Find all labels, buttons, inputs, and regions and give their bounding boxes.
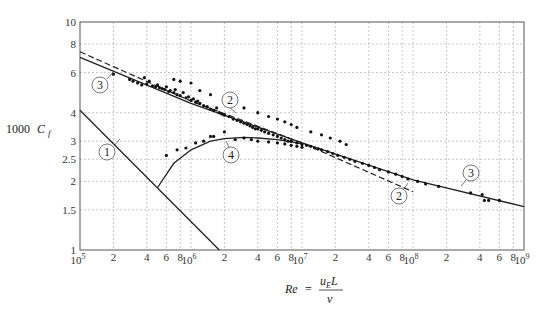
data-point xyxy=(256,111,259,114)
data-point xyxy=(256,140,259,143)
data-point xyxy=(202,104,205,107)
data-point xyxy=(437,185,440,188)
data-point xyxy=(320,133,323,136)
data-point xyxy=(151,84,154,87)
data-point xyxy=(209,135,212,138)
data-point xyxy=(251,126,254,129)
x-tick-label: 2 xyxy=(333,251,339,263)
data-point xyxy=(223,114,226,117)
label-leader xyxy=(226,141,229,147)
y-tick-label: 8 xyxy=(71,38,77,50)
data-point xyxy=(295,141,298,144)
data-point xyxy=(373,166,376,169)
label-leader xyxy=(230,108,236,113)
data-point xyxy=(331,152,334,155)
data-point xyxy=(361,162,364,165)
data-point xyxy=(280,136,283,139)
label-leader xyxy=(107,72,113,79)
data-point xyxy=(290,144,293,147)
x-axis-label-denominator: ν xyxy=(327,292,333,306)
data-point xyxy=(212,135,215,138)
data-point xyxy=(378,168,381,171)
curve-label-2: 2 xyxy=(396,189,402,203)
data-point xyxy=(223,130,226,133)
data-point xyxy=(145,82,148,85)
x-tick-label: 4 xyxy=(366,251,372,263)
data-point xyxy=(189,81,192,84)
data-point xyxy=(176,93,179,96)
data-point xyxy=(272,133,275,136)
curve-label-3: 3 xyxy=(97,78,103,92)
data-point xyxy=(329,136,332,139)
y-axis-label-symbol: C xyxy=(37,122,46,136)
data-point xyxy=(401,175,404,178)
y-axis-label: 1000 C f xyxy=(6,122,52,138)
data-point xyxy=(242,122,245,125)
data-point xyxy=(295,145,298,148)
data-point xyxy=(345,143,348,146)
y-tick-label: 6 xyxy=(71,67,77,79)
data-point xyxy=(182,91,185,94)
data-point xyxy=(206,105,209,108)
y-tick-label: 2.5 xyxy=(62,153,76,165)
data-point xyxy=(283,138,286,141)
data-point xyxy=(140,83,143,86)
data-point xyxy=(309,145,312,148)
data-point xyxy=(283,142,286,145)
curve-1 xyxy=(80,110,219,250)
data-point xyxy=(353,160,356,163)
label-leader xyxy=(114,139,120,146)
x-tick-label-decade: 106 xyxy=(182,252,197,266)
data-point xyxy=(424,182,427,185)
data-point xyxy=(290,140,293,143)
data-point xyxy=(176,148,179,151)
data-point xyxy=(305,144,308,147)
data-point xyxy=(209,93,212,96)
x-axis-label-numerator: uEL xyxy=(320,274,338,290)
x-tick-label: 6 xyxy=(164,251,170,263)
data-point xyxy=(174,88,177,91)
data-point xyxy=(194,141,197,144)
data-point xyxy=(276,118,279,121)
data-point xyxy=(276,141,279,144)
data-point xyxy=(169,89,172,92)
data-point xyxy=(263,130,266,133)
y-tick-label: 1.5 xyxy=(62,204,76,216)
data-point xyxy=(236,119,239,122)
data-point xyxy=(343,156,346,159)
skin-friction-chart: 11.522.5346810 1052468106246810724681082… xyxy=(0,0,543,311)
data-point xyxy=(212,109,215,112)
data-point xyxy=(242,106,245,109)
data-point xyxy=(242,136,245,139)
data-point xyxy=(394,173,397,176)
data-point xyxy=(143,76,146,79)
data-point xyxy=(246,123,249,126)
data-point xyxy=(469,191,472,194)
data-point xyxy=(313,146,316,149)
x-tick-label: 2 xyxy=(444,251,450,263)
data-point xyxy=(387,170,390,173)
grid-lines xyxy=(80,22,524,250)
data-point xyxy=(250,138,253,141)
x-tick-label: 2 xyxy=(222,251,228,263)
x-tick-label-decade: 109 xyxy=(515,252,530,266)
data-point xyxy=(184,146,187,149)
data-point xyxy=(309,130,312,133)
x-tick-label: 6 xyxy=(497,251,503,263)
data-point xyxy=(406,177,409,180)
data-point xyxy=(198,89,201,92)
data-point xyxy=(187,95,190,98)
data-point xyxy=(198,102,201,105)
x-axis-label-equals: = xyxy=(305,282,312,296)
data-point xyxy=(320,148,323,151)
data-point xyxy=(267,115,270,118)
data-point xyxy=(483,199,486,202)
data-point xyxy=(131,80,134,83)
data-point xyxy=(172,91,175,94)
data-point xyxy=(276,135,279,138)
curve-label-3: 3 xyxy=(468,166,474,180)
data-point xyxy=(267,140,270,143)
data-point xyxy=(248,124,251,127)
data-point xyxy=(179,80,182,83)
data-point xyxy=(338,140,341,143)
